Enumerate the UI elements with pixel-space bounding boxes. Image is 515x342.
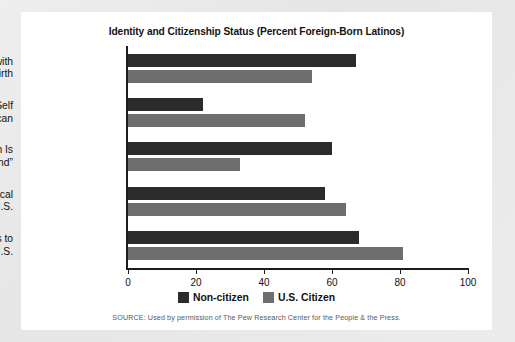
page-background: Identity and Citizenship Status (Percent…	[0, 0, 515, 342]
x-tick-mark	[400, 268, 401, 274]
bar-group	[128, 90, 468, 134]
legend-swatch-icon	[263, 292, 274, 303]
bar-non-citizen	[128, 187, 325, 200]
category-label: Locus of Political Concern in U.S.	[0, 189, 13, 214]
bar-group	[128, 135, 468, 179]
x-tick-mark	[128, 268, 129, 274]
category-label: Identifies Self with Country of Birth	[0, 56, 13, 81]
legend-item-non-citizen: Non-citizen	[178, 292, 249, 303]
category-label: Ever Describes Self as American	[0, 100, 13, 125]
x-tick-label: 80	[394, 277, 405, 288]
legend-item-us-citizen: U.S. Citizen	[263, 292, 335, 303]
bar-us-citizen	[128, 247, 403, 260]
x-tick-mark	[332, 268, 333, 274]
bar-us-citizen	[128, 158, 240, 171]
x-tick-label: 20	[190, 277, 201, 288]
x-axis-line	[126, 268, 469, 270]
bar-non-citizen	[128, 231, 359, 244]
bar-group	[128, 46, 468, 90]
bar-non-citizen	[128, 98, 203, 111]
category-label: Country of Birth Is “Real Homeland”	[0, 144, 13, 169]
plot-area: 020406080100	[128, 46, 468, 268]
bar-us-citizen	[128, 203, 346, 216]
x-tick-label: 0	[125, 277, 131, 288]
x-tick-mark	[468, 268, 469, 274]
bar-group	[128, 179, 468, 223]
x-tick-label: 40	[258, 277, 269, 288]
chart-title: Identity and Citizenship Status (Percent…	[21, 26, 492, 37]
x-tick-label: 60	[326, 277, 337, 288]
bar-non-citizen	[128, 54, 356, 67]
category-label: Plans to Stay in U.S.	[0, 233, 13, 258]
chart-card: Identity and Citizenship Status (Percent…	[21, 12, 492, 330]
bar-us-citizen	[128, 114, 305, 127]
bar-us-citizen	[128, 70, 312, 83]
x-tick-label: 100	[460, 277, 477, 288]
bar-group	[128, 224, 468, 268]
legend-label: U.S. Citizen	[278, 292, 335, 303]
x-tick-mark	[196, 268, 197, 274]
bar-non-citizen	[128, 142, 332, 155]
x-tick-mark	[264, 268, 265, 274]
legend-swatch-icon	[178, 292, 189, 303]
legend-label: Non-citizen	[193, 292, 249, 303]
source-note: SOURCE: Used by permission of The Pew Re…	[21, 313, 492, 322]
chart-legend: Non-citizen U.S. Citizen	[21, 292, 492, 303]
